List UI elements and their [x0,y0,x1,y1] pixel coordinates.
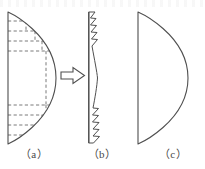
panel-b-removed-sliver [86,10,116,146]
caption-b: （b） [72,148,132,160]
arrow-right-icon [61,68,85,84]
figure-root: （a） （b） （c） [0,0,205,169]
panel-b-outline [89,12,100,143]
panel-c-outline [138,12,188,144]
panel-a-raw-blank [4,10,60,146]
caption-c: （c） [143,148,203,160]
panel-a-body [8,12,56,144]
panel-c-finished-part [134,10,194,146]
caption-a: （a） [4,148,64,160]
transform-arrow [60,66,86,85]
scan-residue-strip [0,0,205,7]
